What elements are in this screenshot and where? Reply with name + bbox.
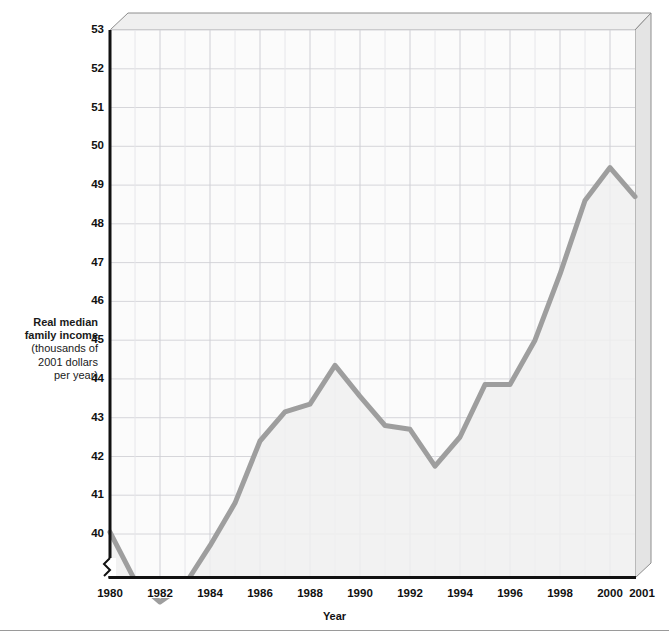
panel-top-face (110, 13, 651, 30)
y-axis-title-line-4: 2001 dollars (0, 356, 98, 369)
y-tick-label: 51 (78, 101, 104, 113)
y-tick-label: 52 (78, 62, 104, 74)
x-tick-label: 1980 (87, 587, 133, 599)
y-tick-label: 40 (78, 527, 104, 539)
x-tick-label: 1986 (237, 587, 283, 599)
y-tick-label: 42 (78, 450, 104, 462)
y-axis-title-line-1: Real median (0, 316, 98, 329)
x-tick-label: 1992 (387, 587, 433, 599)
y-tick-label: 53 (78, 23, 104, 35)
y-tick-label: 43 (78, 411, 104, 423)
y-axis-break-icon (104, 558, 116, 576)
line-chart-canvas (0, 0, 669, 637)
x-tick-label: 1984 (187, 587, 233, 599)
x-tick-label: 1998 (537, 587, 583, 599)
x-tick-label: 1982 (137, 587, 183, 599)
y-tick-label: 41 (78, 488, 104, 500)
x-tick-label: 1996 (487, 587, 533, 599)
x-tick-label: 2001 (619, 587, 665, 599)
y-tick-label: 47 (78, 256, 104, 268)
y-tick-label: 48 (78, 217, 104, 229)
x-axis-title: Year (0, 610, 669, 622)
y-tick-label: 49 (78, 178, 104, 190)
y-tick-label: 50 (78, 139, 104, 151)
x-tick-label: 1988 (287, 587, 333, 599)
y-tick-label: 44 (78, 372, 104, 384)
panel-right-face (635, 13, 651, 578)
chart-figure: Real median family income (thousands of … (0, 0, 669, 637)
x-tick-label: 1994 (437, 587, 483, 599)
y-tick-label: 45 (78, 333, 104, 345)
y-tick-label: 46 (78, 294, 104, 306)
footer-divider (0, 630, 669, 631)
x-tick-label: 1990 (337, 587, 383, 599)
